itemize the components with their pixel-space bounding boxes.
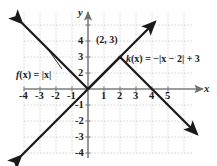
- x-tick-label-neg3: -3: [35, 91, 44, 102]
- coordinate-plane: [0, 0, 217, 166]
- y-tick-label-3: 3: [78, 52, 83, 63]
- function-label-k-args: (x): [131, 53, 143, 64]
- x-tick-label-3: 3: [133, 91, 138, 102]
- x-tick-label-2: 2: [117, 91, 122, 102]
- y-tick-label-neg2: -2: [75, 116, 84, 127]
- vertex-point-marker: [118, 55, 121, 58]
- x-tick-label-neg2: -2: [51, 91, 60, 102]
- function-label-f-expression: = |x|: [31, 69, 51, 80]
- function-label-k-expression: = −|x − 2| + 3: [143, 53, 200, 64]
- y-tick-label-neg1: -1: [75, 100, 84, 111]
- x-axis-label: x: [204, 84, 209, 95]
- x-tick-label-4: 4: [149, 91, 154, 102]
- function-label-f-args: (x): [19, 69, 31, 80]
- y-tick-label-2: 2: [78, 68, 83, 79]
- graph-figure: y x -4 -3 -2 -1 1 2 3 4 5 4 3 2 -1 -2 -3…: [0, 0, 217, 166]
- x-tick-label-1: 1: [101, 91, 106, 102]
- y-axis-label: y: [78, 8, 83, 19]
- function-label-f: f(x) = |x|: [16, 70, 51, 80]
- y-tick-label-4: 4: [78, 36, 83, 47]
- y-tick-label-neg3: -3: [75, 132, 84, 143]
- x-tick-label-neg4: -4: [19, 91, 28, 102]
- y-tick-label-neg4: -4: [75, 148, 84, 159]
- vertex-point-label: (2, 3): [96, 35, 118, 45]
- function-label-k: k(x) = −|x − 2| + 3: [126, 54, 200, 64]
- x-tick-label-5: 5: [165, 91, 170, 102]
